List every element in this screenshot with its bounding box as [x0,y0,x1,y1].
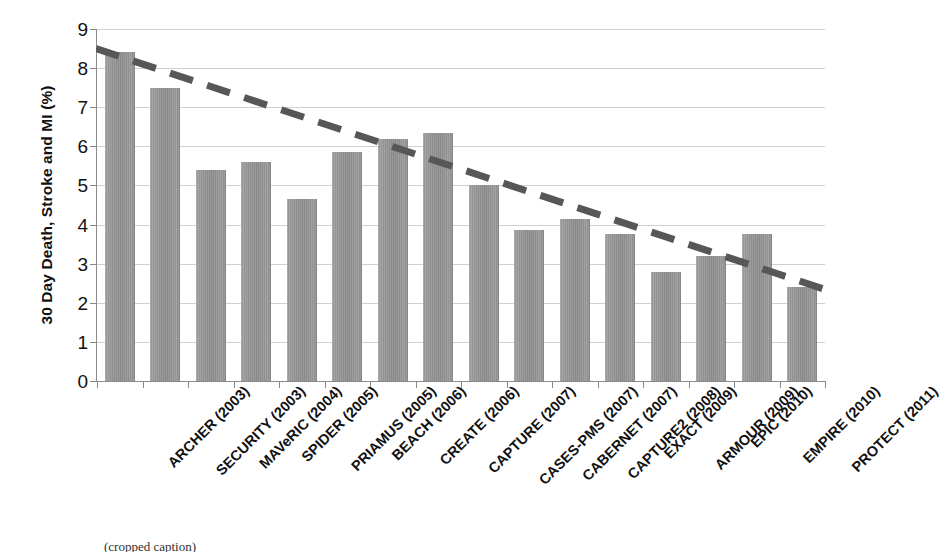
plot-area [96,29,825,382]
bottom-caption: (cropped caption) [0,541,843,552]
bar [423,133,453,381]
bar [787,287,817,381]
bar [514,230,544,381]
bar [742,234,772,381]
bar [378,139,408,381]
bar [241,162,271,381]
y-axis-tick [90,264,97,265]
bar [196,170,226,381]
bar [469,185,499,381]
y-axis-tick-label: 3 [50,254,88,273]
y-axis-tick [90,342,97,343]
bar [560,219,590,381]
bar [105,52,135,381]
y-axis-tick-label: 0 [50,372,88,391]
x-axis-category-labels: ARCHER (2003)SECURITY (2003)MAVeRIC (200… [96,383,824,528]
y-axis-tick-label: 4 [50,215,88,234]
y-axis-tick [90,381,97,382]
bar-series [97,29,825,381]
bar [287,199,317,381]
y-axis-tick [90,29,97,30]
bar [651,272,681,382]
x-axis-tick [825,381,826,388]
bar [332,152,362,381]
y-axis-tick-label: 5 [50,176,88,195]
y-axis-tick-label: 9 [50,20,88,39]
y-axis-tick-labels: 0123456789 [50,29,88,381]
y-axis-tick-label: 6 [50,137,88,156]
y-axis-tick [90,185,97,186]
y-axis-tick [90,107,97,108]
y-axis-tick-label: 2 [50,293,88,312]
bar [150,88,180,381]
y-axis-tick [90,146,97,147]
y-axis-tick-label: 7 [50,98,88,117]
y-axis-tick [90,225,97,226]
y-axis-tick-label: 8 [50,59,88,78]
bar [605,234,635,381]
bar [696,256,726,381]
y-axis-tick-label: 1 [50,332,88,351]
y-axis-tick [90,68,97,69]
y-axis-tick [90,303,97,304]
bottom-caption-text: (cropped caption) [0,541,843,552]
